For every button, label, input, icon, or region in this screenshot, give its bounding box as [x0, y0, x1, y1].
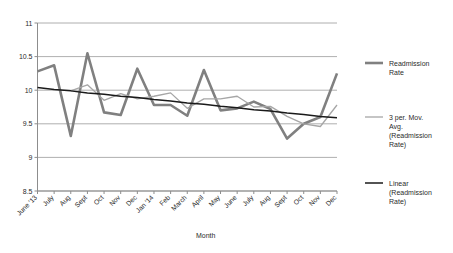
- y-tick-label: 10.5: [19, 53, 33, 60]
- y-tick-label: 9: [29, 154, 33, 161]
- x-tick-label: March: [170, 194, 188, 212]
- gridlines: [38, 23, 338, 191]
- legend-label: Linear: [389, 180, 409, 187]
- chart-legend: ReadmissionRate3 per. Mov.Avg.(Readmissi…: [365, 60, 432, 206]
- legend-label: Avg.: [389, 123, 403, 131]
- series-line: [38, 53, 338, 138]
- x-tick-label: Sept: [273, 194, 289, 210]
- x-tick-label: June: [222, 194, 238, 210]
- x-tick-label: April: [190, 193, 206, 209]
- x-tick-label: Aug: [58, 194, 72, 208]
- x-tick-label: Nov: [308, 193, 322, 207]
- x-tick-labels: June '13JulyAugSeptOctNovDecJan '14FebMa…: [15, 193, 338, 216]
- x-tick-label: July: [241, 193, 256, 208]
- x-tick-label: Feb: [158, 194, 171, 207]
- y-axis: 8.599.51010.511: [19, 20, 38, 195]
- legend-label: (Readmission: [389, 189, 432, 197]
- x-tick-label: Oct: [92, 194, 105, 207]
- legend-label: 3 per. Mov.: [389, 114, 423, 122]
- legend-label: Rate: [389, 69, 404, 76]
- legend-label: Rate): [389, 141, 406, 149]
- legend-label: Rate): [389, 198, 406, 206]
- legend-label: (Readmission: [389, 132, 432, 140]
- x-tick-label: Aug: [258, 194, 272, 208]
- y-tick-label: 9.5: [23, 120, 33, 127]
- y-tick-label: 10: [25, 87, 33, 94]
- legend-label: Readmission: [389, 60, 430, 67]
- readmission-rate-chart: 8.599.51010.511 June '13JulyAugSeptOctNo…: [0, 0, 453, 253]
- x-tick-label: Dec: [125, 193, 139, 207]
- x-tick-label: Nov: [108, 193, 122, 207]
- data-series: [38, 53, 338, 138]
- x-tick-label: Jan '14: [134, 194, 154, 214]
- chart-canvas: 8.599.51010.511 June '13JulyAugSeptOctNo…: [0, 0, 453, 253]
- x-tick-label: July: [41, 193, 56, 208]
- y-tick-label: 8.5: [23, 188, 33, 195]
- y-tick-label: 11: [25, 20, 32, 27]
- x-axis-title: Month: [196, 232, 216, 239]
- x-tick-label: May: [207, 193, 222, 208]
- x-tick-label: June '13: [15, 194, 38, 217]
- x-tick-label: Oct: [292, 194, 305, 207]
- x-tick-label: Sept: [73, 194, 89, 210]
- x-tick-label: Dec: [324, 193, 338, 207]
- series-line: [71, 85, 337, 127]
